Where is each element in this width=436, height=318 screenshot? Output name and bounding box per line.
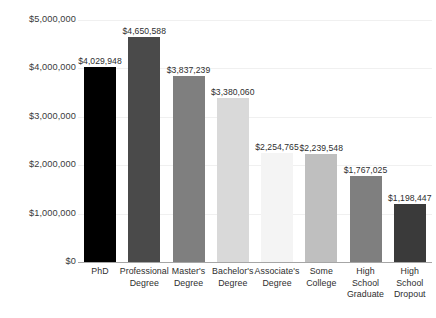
bar-value-label: $4,650,588 bbox=[116, 26, 172, 36]
y-axis: $0$1,000,000$2,000,000$3,000,000$4,000,0… bbox=[0, 0, 76, 318]
y-axis-tick-label: $5,000,000 bbox=[4, 14, 76, 24]
bar-group: $1,198,447HighSchoolDropout bbox=[388, 0, 432, 318]
bar bbox=[350, 176, 382, 262]
bar bbox=[394, 204, 426, 262]
bar-value-label: $1,767,025 bbox=[338, 165, 394, 175]
category-label-line: School bbox=[381, 278, 436, 290]
category-label-line: Dropout bbox=[381, 289, 436, 301]
y-axis-tick-label: $3,000,000 bbox=[4, 111, 76, 121]
bar-value-label: $2,239,548 bbox=[293, 143, 349, 153]
bar bbox=[261, 153, 293, 262]
bar-value-label: $3,380,060 bbox=[205, 87, 261, 97]
bars-layer: $4,029,948PhD$4,650,588ProfessionalDegre… bbox=[78, 0, 432, 318]
y-axis-tick-label: $4,000,000 bbox=[4, 62, 76, 72]
bar bbox=[217, 98, 249, 262]
y-axis-tick-label: $0 bbox=[4, 256, 76, 266]
bar-value-label: $1,198,447 bbox=[382, 193, 436, 203]
bar-value-label: $4,029,948 bbox=[72, 56, 128, 66]
bar bbox=[84, 67, 116, 262]
bar-chart: $0$1,000,000$2,000,000$3,000,000$4,000,0… bbox=[0, 0, 436, 318]
bar bbox=[173, 76, 205, 262]
bar bbox=[128, 37, 160, 262]
bar-value-label: $3,837,239 bbox=[161, 65, 217, 75]
bar bbox=[305, 154, 337, 262]
y-axis-tick-label: $1,000,000 bbox=[4, 208, 76, 218]
x-axis-category-label: HighSchoolDropout bbox=[381, 266, 436, 301]
category-label-line: High bbox=[381, 266, 436, 278]
y-axis-tick-label: $2,000,000 bbox=[4, 159, 76, 169]
